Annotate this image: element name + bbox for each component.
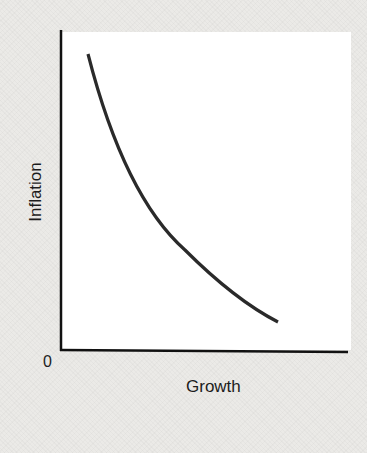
y-axis-label: Inflation xyxy=(26,162,46,222)
x-axis xyxy=(60,350,348,352)
inflation-growth-curve xyxy=(88,54,278,322)
x-axis-label: Growth xyxy=(186,377,241,397)
chart-svg xyxy=(0,0,367,453)
origin-label: 0 xyxy=(43,353,52,371)
